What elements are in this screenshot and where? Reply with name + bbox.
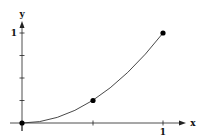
point-half [90, 98, 95, 103]
chart: y x 1 1 [0, 0, 198, 138]
point-origin [19, 120, 24, 125]
parabola-curve [22, 33, 163, 123]
x-axis-arrow-icon [179, 121, 186, 126]
point-one [160, 30, 165, 35]
y-axis-arrow-icon [20, 21, 25, 28]
x-tick-label-one: 1 [160, 127, 166, 137]
y-axis [20, 21, 25, 131]
y-axis-label: y [18, 9, 25, 19]
x-axis-label: x [190, 118, 196, 128]
y-tick-label-one: 1 [11, 28, 17, 38]
